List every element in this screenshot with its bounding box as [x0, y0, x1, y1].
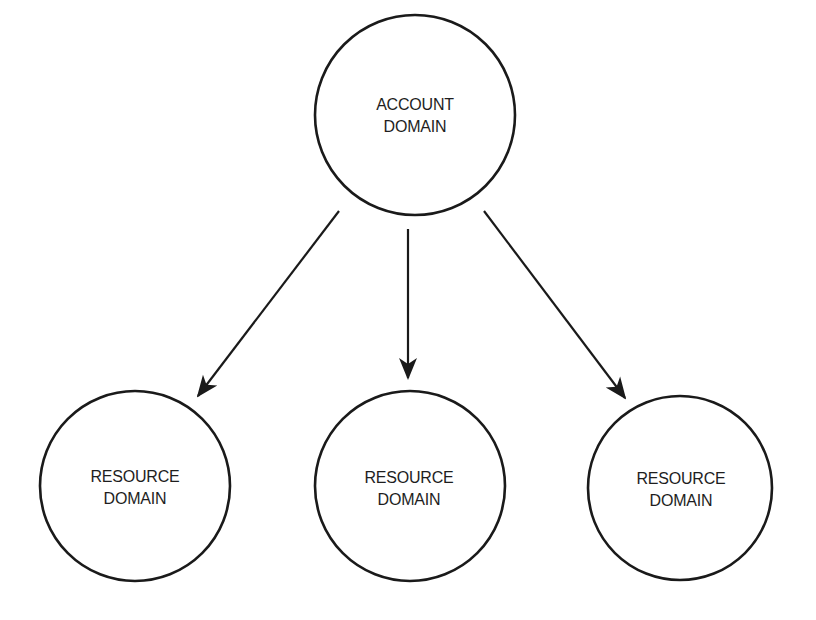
resource-domain-label-left: RESOURCE DOMAIN	[55, 466, 215, 510]
arrow-to-right-resource	[484, 211, 625, 398]
domain-trust-diagram	[0, 0, 816, 620]
resource-domain-left-line2: DOMAIN	[55, 488, 215, 510]
resource-domain-middle-line1: RESOURCE	[329, 467, 489, 489]
account-domain-label: ACCOUNT DOMAIN	[335, 94, 495, 138]
arrow-to-left-resource	[198, 211, 339, 396]
resource-domain-right-line2: DOMAIN	[601, 490, 761, 512]
resource-domain-middle-line2: DOMAIN	[329, 489, 489, 511]
resource-domain-left-line1: RESOURCE	[55, 466, 215, 488]
resource-domain-right-line1: RESOURCE	[601, 468, 761, 490]
resource-domain-label-right: RESOURCE DOMAIN	[601, 468, 761, 512]
account-domain-label-line2: DOMAIN	[335, 116, 495, 138]
account-domain-label-line1: ACCOUNT	[335, 94, 495, 116]
resource-domain-label-middle: RESOURCE DOMAIN	[329, 467, 489, 511]
